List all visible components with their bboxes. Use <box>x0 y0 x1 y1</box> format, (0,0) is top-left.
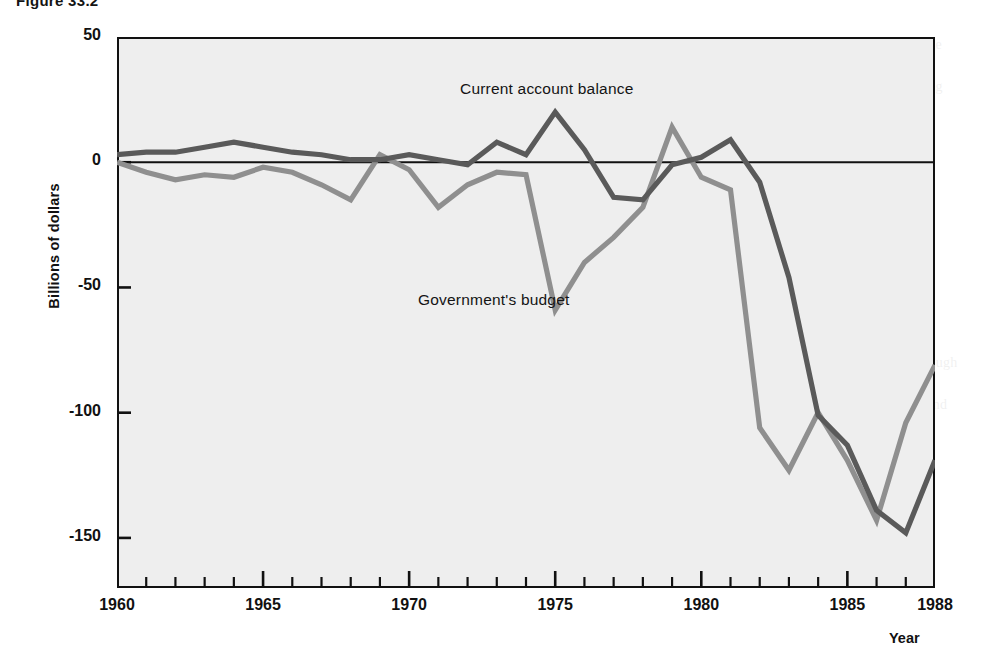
y-axis-tick-label: -100 <box>31 402 101 420</box>
y-axis-title: Billions of dollars <box>46 151 62 341</box>
y-axis-tick-label: 0 <box>31 151 101 169</box>
series-label-government-budget: Government's budget <box>418 291 570 309</box>
x-axis-tick-label: 1960 <box>82 596 152 614</box>
y-axis-tick-label: -50 <box>31 276 101 294</box>
x-axis-tick-label: 1980 <box>666 596 736 614</box>
x-axis-tick-label: 1985 <box>812 596 882 614</box>
y-axis-tick-label: -150 <box>31 527 101 545</box>
figure-page: Figure 33.2 was slower and less complete… <box>0 0 981 671</box>
figure-caption: Figure 33.2 <box>16 0 99 9</box>
y-axis-tick-label: 50 <box>31 26 101 44</box>
series-label-current-account: Current account balance <box>460 80 633 98</box>
x-axis-title: Year <box>889 630 920 646</box>
axis-ticks-layer <box>117 37 935 588</box>
series-line-governments-budget <box>117 127 935 520</box>
series-layer <box>117 112 935 533</box>
x-axis-tick-label: 1970 <box>374 596 444 614</box>
chart-canvas <box>117 37 935 588</box>
x-axis-tick-label: 1988 <box>900 596 970 614</box>
x-axis-tick-label: 1975 <box>520 596 590 614</box>
x-axis-tick-label: 1965 <box>228 596 298 614</box>
